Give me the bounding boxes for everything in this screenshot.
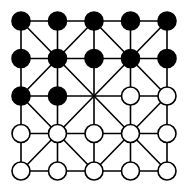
- white-piece[interactable]: [85, 162, 103, 180]
- white-piece[interactable]: [158, 125, 176, 143]
- white-piece[interactable]: [49, 162, 67, 180]
- black-piece[interactable]: [12, 12, 30, 30]
- white-piece[interactable]: [49, 125, 67, 143]
- black-piece[interactable]: [85, 12, 103, 30]
- game-board: [0, 0, 187, 193]
- black-piece[interactable]: [122, 12, 140, 30]
- board-svg: [0, 0, 187, 193]
- black-piece[interactable]: [12, 87, 30, 105]
- empty-point[interactable]: [91, 93, 97, 99]
- white-piece[interactable]: [122, 125, 140, 143]
- white-piece[interactable]: [122, 87, 140, 105]
- black-piece[interactable]: [158, 12, 176, 30]
- black-piece[interactable]: [49, 12, 67, 30]
- black-piece[interactable]: [49, 87, 67, 105]
- black-piece[interactable]: [49, 50, 67, 68]
- black-piece[interactable]: [12, 50, 30, 68]
- white-piece[interactable]: [158, 87, 176, 105]
- black-piece[interactable]: [122, 50, 140, 68]
- white-piece[interactable]: [12, 125, 30, 143]
- white-piece[interactable]: [158, 162, 176, 180]
- white-piece[interactable]: [122, 162, 140, 180]
- black-piece[interactable]: [85, 50, 103, 68]
- white-piece[interactable]: [85, 125, 103, 143]
- black-piece[interactable]: [158, 50, 176, 68]
- white-piece[interactable]: [12, 162, 30, 180]
